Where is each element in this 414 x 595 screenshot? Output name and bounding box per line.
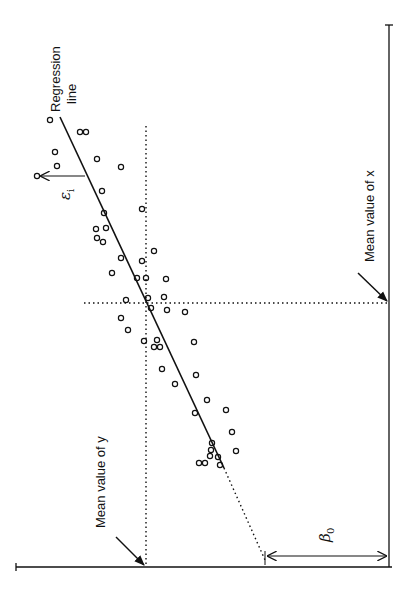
data-point xyxy=(118,315,123,320)
data-point xyxy=(154,337,159,342)
regression-diagram: ε i β 0 Regression line Mean value of x … xyxy=(0,0,414,595)
data-point xyxy=(93,226,98,231)
data-point xyxy=(157,344,162,349)
data-point xyxy=(191,339,196,344)
data-point xyxy=(118,164,123,169)
residual-label: ε i xyxy=(56,189,76,200)
data-point xyxy=(196,460,201,465)
data-point xyxy=(233,448,238,453)
mean-x-label: Mean value of x xyxy=(362,170,377,262)
data-point xyxy=(164,307,169,312)
data-point xyxy=(151,248,156,253)
data-point xyxy=(159,366,164,371)
data-point xyxy=(208,447,213,452)
data-point xyxy=(94,235,99,240)
data-point xyxy=(202,460,207,465)
x-axis xyxy=(385,25,393,567)
data-point xyxy=(54,163,59,168)
data-point xyxy=(123,297,128,302)
data-point xyxy=(193,372,198,377)
regression-line-extrapolation xyxy=(224,468,265,560)
svg-text:0: 0 xyxy=(325,528,336,534)
data-point xyxy=(192,410,197,415)
data-point xyxy=(182,309,187,314)
data-point xyxy=(229,429,234,434)
data-point xyxy=(139,258,144,263)
data-point xyxy=(207,453,212,458)
data-point xyxy=(83,129,88,134)
svg-text:Regression: Regression xyxy=(48,46,63,112)
data-point xyxy=(94,156,99,161)
data-point xyxy=(118,255,123,260)
regression-line xyxy=(60,117,224,468)
data-point xyxy=(52,149,57,154)
data-point xyxy=(47,117,52,122)
data-point xyxy=(103,225,108,230)
intercept-label: β 0 xyxy=(316,528,336,543)
regression-line-label: Regression line xyxy=(48,46,79,112)
svg-text:ε: ε xyxy=(56,192,74,200)
mean-y-label: Mean value of y xyxy=(93,436,108,528)
mean-y-pointer-arrow xyxy=(116,537,144,565)
data-points xyxy=(34,117,238,467)
data-point xyxy=(100,239,105,244)
data-point xyxy=(161,294,166,299)
data-point xyxy=(34,173,39,178)
data-point xyxy=(77,129,82,134)
data-point xyxy=(141,338,146,343)
data-point xyxy=(223,407,228,412)
data-point xyxy=(163,276,168,281)
y-axis xyxy=(16,563,392,571)
svg-text:Mean value of x: Mean value of x xyxy=(362,170,377,262)
data-point xyxy=(139,206,144,211)
data-point xyxy=(125,327,130,332)
svg-text:i: i xyxy=(65,189,76,192)
data-point xyxy=(204,397,209,402)
data-point xyxy=(109,270,114,275)
data-point xyxy=(151,344,156,349)
data-point xyxy=(99,188,104,193)
mean-x-pointer-arrow xyxy=(358,273,387,301)
svg-text:line: line xyxy=(64,84,79,104)
svg-text:Mean value of y: Mean value of y xyxy=(93,436,108,528)
data-point xyxy=(172,381,177,386)
